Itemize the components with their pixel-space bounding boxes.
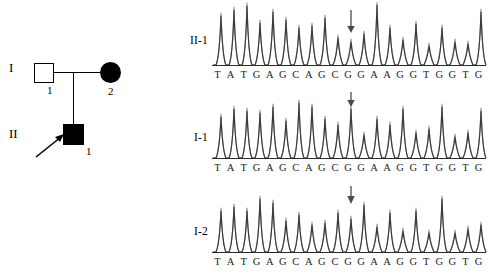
base-letter: C xyxy=(290,69,301,80)
base-letter: G xyxy=(356,256,367,267)
base-letter: G xyxy=(316,256,327,267)
base-letter: G xyxy=(342,256,353,267)
chromatogram-label-II-1: II-1 xyxy=(168,35,208,47)
base-letter: G xyxy=(408,162,419,173)
chromatogram-trace-II-1 xyxy=(212,2,488,68)
individual-II-1-number: 1 xyxy=(86,146,92,157)
base-sequence-I-1: T A T G A G C A G C G G A A G G T G G T … xyxy=(212,162,484,173)
base-letter: A xyxy=(303,162,314,173)
base-letter: T xyxy=(212,69,223,80)
base-sequence-I-2: T A T G A G C A G C G G A A G G T G G T … xyxy=(212,256,484,267)
trace-baseline-I-1 xyxy=(212,158,486,159)
base-letter: T xyxy=(238,162,249,173)
chromatogram-label-I-2: I-2 xyxy=(168,226,208,238)
trace-baseline-II-1 xyxy=(212,65,486,66)
base-letter: G xyxy=(316,69,327,80)
chromatogram-panel-I-1: I-1 T A T G A G C A G C G G A A xyxy=(168,92,486,182)
base-letter: G xyxy=(251,69,262,80)
base-letter: T xyxy=(421,162,432,173)
base-letter: G xyxy=(356,162,367,173)
base-letter: T xyxy=(460,69,471,80)
mating-line xyxy=(54,72,100,73)
base-letter: A xyxy=(264,256,275,267)
base-letter: T xyxy=(212,162,223,173)
base-letter: T xyxy=(212,256,223,267)
base-letter: A xyxy=(382,69,393,80)
pedigree-diagram: I II 1 2 1 xyxy=(0,0,170,278)
base-letter: G xyxy=(434,69,445,80)
base-letter: G xyxy=(473,256,484,267)
base-letter: T xyxy=(238,69,249,80)
sibship-drop-line xyxy=(73,72,74,125)
base-letter: G xyxy=(447,162,458,173)
base-letter: G xyxy=(408,256,419,267)
chromatogram-label-I-1: I-1 xyxy=(168,132,208,144)
base-letter: G xyxy=(434,162,445,173)
base-letter: G xyxy=(251,162,262,173)
mutation-arrow-icon-I-2 xyxy=(347,186,354,204)
base-letter: C xyxy=(329,162,340,173)
base-letter: G xyxy=(342,162,353,173)
generation-label-II: II xyxy=(9,127,18,140)
individual-I-1-number: 1 xyxy=(47,85,53,96)
base-letter: C xyxy=(329,256,340,267)
base-letter: G xyxy=(408,69,419,80)
base-letter: G xyxy=(356,69,367,80)
base-letter: A xyxy=(225,256,236,267)
base-letter: T xyxy=(460,256,471,267)
base-letter: A xyxy=(225,69,236,80)
individual-I-2-number: 2 xyxy=(108,86,114,97)
base-letter: G xyxy=(277,256,288,267)
base-letter: A xyxy=(303,69,314,80)
chromatogram-trace-I-2 xyxy=(212,184,488,254)
mutation-arrow-icon-I-1 xyxy=(347,92,354,107)
base-letter: A xyxy=(225,162,236,173)
base-letter: T xyxy=(238,256,249,267)
base-letter: T xyxy=(421,69,432,80)
base-letter: G xyxy=(277,69,288,80)
base-letter: T xyxy=(421,256,432,267)
mutation-arrow-icon-II-1 xyxy=(347,10,354,33)
base-letter: G xyxy=(395,162,406,173)
base-sequence-II-1: T A T G A G C A G C G G A A G G T G G T … xyxy=(212,69,484,80)
base-letter: A xyxy=(264,162,275,173)
base-letter: A xyxy=(382,256,393,267)
base-letter: A xyxy=(369,69,380,80)
individual-I-1-symbol[interactable] xyxy=(34,63,54,83)
base-letter: G xyxy=(342,69,353,80)
proband-arrow-icon xyxy=(34,133,68,159)
base-letter: G xyxy=(316,162,327,173)
figure-caption xyxy=(118,269,378,278)
chromatogram-panel-II-1: II-1 T A T G A G C A G C G G A A xyxy=(168,2,486,90)
base-letter: A xyxy=(369,256,380,267)
base-letter: A xyxy=(369,162,380,173)
base-letter: G xyxy=(277,162,288,173)
base-letter: C xyxy=(290,256,301,267)
base-letter: G xyxy=(434,256,445,267)
base-letter: G xyxy=(473,162,484,173)
base-letter: T xyxy=(460,162,471,173)
base-letter: G xyxy=(395,69,406,80)
base-letter: C xyxy=(290,162,301,173)
base-letter: A xyxy=(264,69,275,80)
base-letter: G xyxy=(447,256,458,267)
chromatogram-panel-I-2: I-2 T A T G A G C A G C G G A A xyxy=(168,184,486,276)
base-letter: A xyxy=(382,162,393,173)
base-letter: C xyxy=(329,69,340,80)
base-letter: G xyxy=(447,69,458,80)
base-letter: G xyxy=(473,69,484,80)
individual-I-2-symbol[interactable] xyxy=(100,62,121,83)
trace-baseline-I-2 xyxy=(212,252,486,253)
generation-label-I: I xyxy=(9,61,13,74)
base-letter: G xyxy=(395,256,406,267)
base-letter: G xyxy=(251,256,262,267)
base-letter: A xyxy=(303,256,314,267)
chromatogram-trace-I-1 xyxy=(212,92,488,160)
